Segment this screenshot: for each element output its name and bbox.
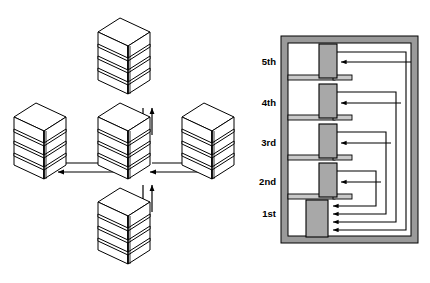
building-west <box>14 103 66 179</box>
floor-label-1st: 1st <box>262 208 277 219</box>
floor-label-3rd: 3rd <box>261 137 276 148</box>
right-diagram: 5th 4th 3rd 2nd 1st <box>259 36 418 243</box>
floor-label-5th: 5th <box>262 56 276 67</box>
building-center <box>98 103 150 179</box>
figure-root: 5th 4th 3rd 2nd 1st <box>0 0 430 283</box>
building-east <box>182 103 234 179</box>
riser-shaft-3rd <box>319 124 337 158</box>
riser-shaft-1st <box>306 200 328 237</box>
building-north <box>98 18 150 94</box>
building-frame <box>281 36 418 243</box>
riser-shaft-5th <box>319 44 337 78</box>
building-south <box>98 188 150 264</box>
riser-shaft-4th <box>319 84 337 118</box>
floor-label-2nd: 2nd <box>259 176 276 187</box>
riser-shaft-2nd <box>319 163 337 197</box>
floor-label-4th: 4th <box>262 97 276 108</box>
